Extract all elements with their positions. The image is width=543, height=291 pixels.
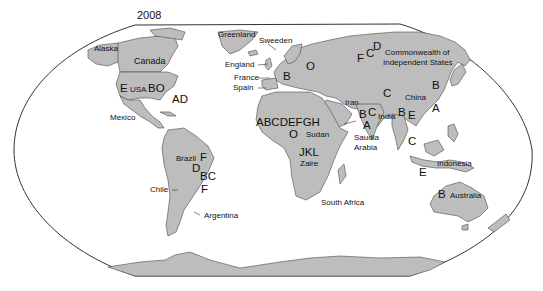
label-mexico: Mexico — [110, 114, 135, 122]
code-india-b: B — [398, 107, 406, 119]
label-sweeden: Sweeden — [259, 37, 292, 45]
label-china: China — [405, 94, 426, 102]
label-saudi-line2: Arabia — [354, 144, 377, 152]
label-indonesia: Indonesia — [437, 160, 472, 168]
code-usa-bo: BO — [148, 83, 165, 95]
code-africa-north: ABCDEFGH — [256, 117, 320, 129]
label-cis-line2: Independent States — [383, 59, 452, 67]
label-usa: USA — [130, 86, 146, 94]
label-sudan: Sudan — [306, 131, 329, 139]
code-brazil-bc: BC — [200, 171, 216, 183]
label-spain: Spain — [233, 84, 253, 92]
label-england: England — [225, 61, 254, 69]
code-sea-c: C — [408, 136, 416, 148]
code-australia-b: B — [438, 189, 446, 201]
code-mideast-a: A — [363, 120, 371, 132]
code-usa-e: E — [120, 83, 128, 95]
label-greenland: Greenland — [218, 31, 255, 39]
code-mideast-c: C — [368, 107, 376, 119]
code-brazil-f2: F — [201, 184, 208, 196]
label-argentina: Argentina — [204, 212, 238, 220]
code-cis-d: D — [373, 41, 381, 53]
label-australia: Australia — [450, 192, 481, 200]
code-brazil-f1: F — [200, 152, 207, 164]
code-sudan-o: O — [289, 129, 298, 141]
code-asia-c: C — [383, 88, 391, 100]
label-chile: Chile — [150, 186, 168, 194]
code-china-a: A — [432, 103, 440, 115]
code-ad: AD — [172, 94, 188, 106]
label-saudi-line1: Saudia — [354, 134, 379, 142]
code-cis-f: F — [357, 53, 364, 65]
code-zaire: JKL — [299, 147, 319, 159]
code-europe-o: O — [306, 61, 315, 73]
label-south-africa: South Africa — [321, 199, 364, 207]
code-sea-e: E — [419, 167, 427, 179]
label-india: India — [378, 113, 395, 121]
map-title: 2008 — [137, 10, 161, 21]
code-india-e: E — [408, 110, 416, 122]
label-canada: Canada — [134, 57, 166, 66]
code-china-b: B — [432, 80, 440, 92]
label-cis-line1: Commonwealth of — [385, 49, 449, 57]
code-europe-b: B — [283, 71, 291, 83]
label-alaska: Alaska — [94, 45, 118, 53]
label-zaire: Zaire — [300, 160, 318, 168]
label-iran: Iran — [345, 99, 359, 107]
label-france: France — [234, 74, 259, 82]
